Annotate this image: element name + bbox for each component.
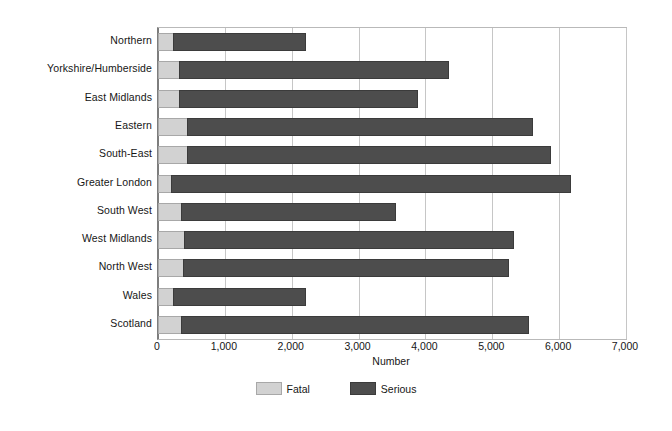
bar-segment-fatal[interactable]: [158, 203, 181, 221]
y-axis-label: Greater London: [0, 177, 152, 188]
bar-row[interactable]: [158, 90, 418, 108]
legend-swatch-fatal: [256, 382, 282, 395]
x-tick-label: 5,000: [478, 340, 504, 352]
bar-segment-serious[interactable]: [187, 146, 551, 164]
x-axis-tick-labels: 01,0002,0003,0004,0005,0006,0007,000: [157, 340, 625, 356]
bar-segment-fatal[interactable]: [158, 33, 173, 51]
legend-item-serious[interactable]: Serious: [350, 382, 417, 395]
x-tick-label: 2,000: [278, 340, 304, 352]
bar-segment-fatal[interactable]: [158, 118, 187, 136]
bar-row[interactable]: [158, 259, 509, 277]
bar-segment-serious[interactable]: [183, 259, 509, 277]
bar-row[interactable]: [158, 288, 306, 306]
bar-row[interactable]: [158, 33, 306, 51]
chart-legend: FatalSerious: [0, 382, 672, 395]
y-axis-label: North West: [0, 261, 152, 272]
x-tick-label: 6,000: [545, 340, 571, 352]
x-tick-label: 4,000: [411, 340, 437, 352]
x-tick-label: 1,000: [211, 340, 237, 352]
bar-row[interactable]: [158, 146, 551, 164]
legend-label: Fatal: [287, 383, 310, 395]
y-axis-label: West Midlands: [0, 233, 152, 244]
bar-segment-fatal[interactable]: [158, 146, 187, 164]
x-tick-label: 0: [154, 340, 160, 352]
bar-segment-serious[interactable]: [179, 90, 418, 108]
legend-swatch-serious: [350, 382, 376, 395]
bar-row[interactable]: [158, 316, 529, 334]
y-axis-label: Scotland: [0, 318, 152, 329]
y-axis-label: South West: [0, 205, 152, 216]
x-axis-title: Number: [157, 355, 625, 367]
bar-segment-fatal[interactable]: [158, 90, 179, 108]
y-axis-label: Yorkshire/Humberside: [0, 63, 152, 74]
legend-item-fatal[interactable]: Fatal: [256, 382, 310, 395]
y-axis-label: Northern: [0, 35, 152, 46]
y-axis-label: Eastern: [0, 120, 152, 131]
plot-area: [157, 27, 627, 340]
legend-label: Serious: [381, 383, 417, 395]
y-axis-category-labels: NorthernYorkshire/HumbersideEast Midland…: [0, 27, 152, 338]
bar-segment-fatal[interactable]: [158, 316, 181, 334]
bar-segment-fatal[interactable]: [158, 175, 171, 193]
bar-segment-serious[interactable]: [181, 316, 529, 334]
stacked-bar-chart: NorthernYorkshire/HumbersideEast Midland…: [0, 0, 672, 431]
bars-layer: [158, 28, 626, 339]
bar-segment-serious[interactable]: [184, 231, 514, 249]
bar-row[interactable]: [158, 231, 514, 249]
bar-segment-fatal[interactable]: [158, 259, 183, 277]
bar-row[interactable]: [158, 61, 449, 79]
bar-row[interactable]: [158, 203, 396, 221]
bar-segment-serious[interactable]: [187, 118, 533, 136]
bar-row[interactable]: [158, 118, 533, 136]
x-tick-label: 7,000: [612, 340, 638, 352]
gridline-7000: [626, 28, 627, 339]
bar-segment-serious[interactable]: [179, 61, 449, 79]
bar-segment-fatal[interactable]: [158, 61, 179, 79]
bar-segment-fatal[interactable]: [158, 288, 173, 306]
bar-segment-serious[interactable]: [181, 203, 396, 221]
y-axis-label: Wales: [0, 290, 152, 301]
bar-segment-serious[interactable]: [171, 175, 571, 193]
bar-row[interactable]: [158, 175, 571, 193]
x-tick-label: 3,000: [344, 340, 370, 352]
y-axis-label: South-East: [0, 148, 152, 159]
bar-segment-fatal[interactable]: [158, 231, 184, 249]
y-axis-label: East Midlands: [0, 92, 152, 103]
bar-segment-serious[interactable]: [173, 33, 306, 51]
bar-segment-serious[interactable]: [173, 288, 306, 306]
